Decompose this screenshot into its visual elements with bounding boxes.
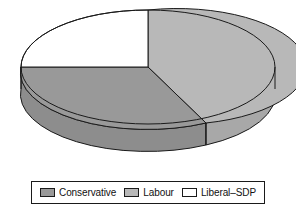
legend-label-conservative: Conservative	[59, 187, 116, 198]
legend-label-labour: Labour	[143, 187, 174, 198]
chart-legend: Conservative Labour Liberal–SDP	[31, 181, 265, 204]
legend-swatch-labour	[124, 188, 139, 197]
legend-item-labour[interactable]: Labour	[124, 187, 174, 198]
legend-label-liberal-sdp: Liberal–SDP	[201, 187, 256, 198]
legend-item-liberal-sdp[interactable]: Liberal–SDP	[182, 187, 256, 198]
pie-chart	[0, 0, 296, 172]
legend-swatch-liberal-sdp	[182, 188, 197, 197]
legend-swatch-conservative	[40, 188, 55, 197]
legend-item-conservative[interactable]: Conservative	[40, 187, 116, 198]
pie-slice-liberal-sdp	[21, 10, 148, 67]
